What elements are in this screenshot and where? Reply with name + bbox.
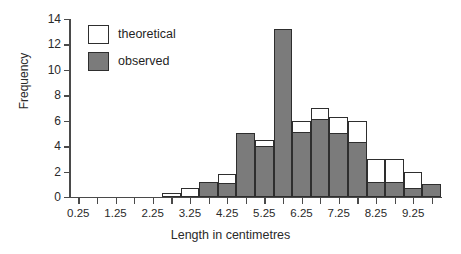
x-tick-label: 6.25 — [290, 207, 312, 219]
bar-observed — [255, 146, 274, 197]
x-tick-mark — [97, 198, 98, 204]
bar-theoretical — [162, 193, 181, 197]
legend-swatch-theoretical — [88, 25, 109, 44]
y-tick-mark — [64, 70, 69, 71]
x-tick-label: 2.25 — [141, 207, 163, 219]
x-tick-mark — [283, 198, 284, 204]
legend-item-observed: observed — [88, 49, 176, 73]
x-tick-label: 3.25 — [179, 207, 201, 219]
y-tick-mark — [64, 146, 69, 147]
legend-label-observed: observed — [118, 54, 169, 68]
x-axis-ticks: 0.251.252.253.254.255.256.257.258.259.25 — [69, 198, 442, 228]
x-tick-mark — [264, 198, 265, 204]
x-tick-mark — [413, 198, 414, 204]
bar-observed — [348, 142, 367, 197]
y-tick-label: 0 — [54, 190, 61, 204]
x-tick-label: 9.25 — [402, 207, 424, 219]
y-tick-label: 6 — [54, 114, 61, 128]
x-tick-mark — [302, 198, 303, 204]
bar-observed — [329, 133, 348, 197]
histogram-figure: Frequency 02468101214 0.251.252.253.254.… — [0, 0, 461, 254]
bar-observed — [385, 182, 404, 197]
x-tick-mark — [153, 198, 154, 204]
bar-observed — [311, 119, 330, 197]
x-tick-mark — [376, 198, 377, 204]
x-tick-mark — [78, 198, 79, 204]
bar-observed — [274, 29, 293, 197]
legend-swatch-observed — [88, 52, 109, 71]
x-axis-title: Length in centimetres — [0, 228, 461, 242]
bar-observed — [367, 182, 386, 197]
y-tick-label: 2 — [54, 165, 61, 179]
x-tick-label: 4.25 — [216, 207, 238, 219]
x-tick-label: 7.25 — [327, 207, 349, 219]
bar-observed — [236, 133, 255, 197]
bar-observed — [422, 184, 441, 197]
x-tick-label: 0.25 — [67, 207, 89, 219]
y-tick-label: 14 — [48, 12, 61, 26]
x-tick-mark — [395, 198, 396, 204]
legend-label-theoretical: theoretical — [118, 27, 176, 41]
y-tick-label: 12 — [48, 37, 61, 51]
bar-theoretical — [181, 188, 200, 197]
x-tick-mark — [209, 198, 210, 204]
x-tick-mark — [134, 198, 135, 204]
x-tick-label: 5.25 — [253, 207, 275, 219]
y-tick-mark — [64, 19, 69, 20]
x-tick-mark — [432, 198, 433, 204]
y-tick-label: 10 — [48, 63, 61, 77]
y-tick-mark — [64, 44, 69, 45]
bar-observed — [404, 188, 423, 197]
bar-observed — [199, 182, 218, 197]
bar-observed — [218, 183, 237, 197]
x-tick-mark — [116, 198, 117, 204]
x-tick-mark — [357, 198, 358, 204]
legend: theoretical observed — [88, 22, 176, 76]
y-tick-mark — [64, 95, 69, 96]
x-tick-mark — [246, 198, 247, 204]
y-axis-title: Frequency — [17, 21, 31, 141]
bar-observed — [292, 132, 311, 197]
legend-item-theoretical: theoretical — [88, 22, 176, 46]
y-tick-label: 8 — [54, 88, 61, 102]
x-tick-mark — [171, 198, 172, 204]
x-tick-mark — [339, 198, 340, 204]
y-tick-mark — [64, 172, 69, 173]
x-tick-mark — [320, 198, 321, 204]
y-tick-label: 4 — [54, 139, 61, 153]
x-tick-mark — [190, 198, 191, 204]
x-tick-label: 8.25 — [365, 207, 387, 219]
y-tick-mark — [64, 121, 69, 122]
x-tick-label: 1.25 — [104, 207, 126, 219]
x-tick-mark — [227, 198, 228, 204]
